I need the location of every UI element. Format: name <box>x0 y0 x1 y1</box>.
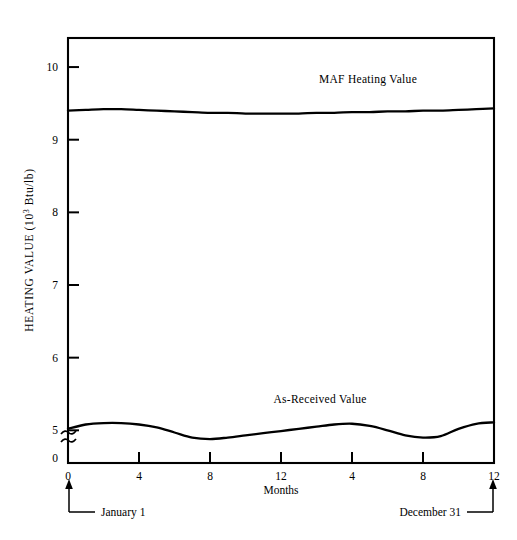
y-tick-label-10: 10 <box>47 61 59 73</box>
series-line-maf-heating-value <box>68 108 494 113</box>
annotation-december-31: December 31 <box>399 479 496 518</box>
heating-value-line-chart: 5678910 0 048124812 MAF Heating Value As… <box>0 0 517 540</box>
x-tick-label-0: 0 <box>65 470 71 482</box>
y-tick-label-6: 6 <box>52 352 58 364</box>
x-tick-label-6: 12 <box>488 470 500 482</box>
series-label-as-received-value: As-Received Value <box>273 393 366 405</box>
y-zero-label: 0 <box>52 452 58 464</box>
series-label-maf-heating-value: MAF Heating Value <box>319 73 417 86</box>
y-tick-label-8: 8 <box>52 206 58 218</box>
y-axis-title: HEATING VALUE (103 Btu/lb) <box>22 168 36 331</box>
x-axis-ticks: 048124812 <box>65 452 500 482</box>
x-tick-label-2: 8 <box>207 470 213 482</box>
x-tick-label-3: 12 <box>275 470 287 482</box>
y-axis-ticks: 5678910 <box>47 61 80 436</box>
y-tick-label-7: 7 <box>52 279 58 291</box>
series-line-as-received-value <box>68 422 494 439</box>
annotation-january-1: January 1 <box>65 479 145 519</box>
y-tick-label-9: 9 <box>52 134 58 146</box>
x-tick-label-1: 4 <box>136 470 142 482</box>
x-axis-title: Months <box>263 484 299 496</box>
x-tick-label-4: 4 <box>349 470 355 482</box>
x-tick-label-5: 8 <box>420 470 426 482</box>
chart-figure: 5678910 0 048124812 MAF Heating Value As… <box>0 0 517 540</box>
annotation-january-1-label: January 1 <box>101 506 146 519</box>
annotation-december-31-label: December 31 <box>399 506 461 518</box>
y-tick-label-5: 5 <box>52 424 58 436</box>
